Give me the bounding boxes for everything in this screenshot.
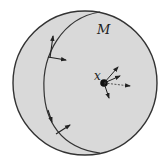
point-label: x — [94, 69, 101, 83]
manifold-label: M — [96, 22, 111, 37]
manifold-diagram: M x — [0, 0, 168, 167]
manifold-disk — [13, 11, 157, 155]
